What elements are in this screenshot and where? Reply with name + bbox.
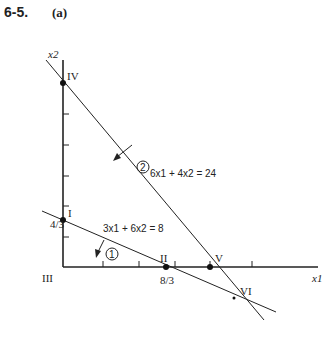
lp-graph: 1 2 3x1 + 6x2 = 8 6x1 + 4x2 = 24 IV I II… [0,0,333,338]
point-V [207,264,213,270]
constraint-2-line [46,60,264,320]
svg-text:x2: x2 [47,48,59,60]
svg-text:V: V [215,252,223,264]
svg-text:VI: VI [240,285,252,297]
svg-text:II: II [160,252,168,264]
point-II [163,264,169,270]
svg-text:I: I [68,207,72,219]
svg-text:2: 2 [140,162,146,173]
point-IV [60,80,66,86]
svg-text:IV: IV [67,70,79,82]
x1-frac-label: 8/3 [160,274,175,286]
point-VI [233,297,236,300]
svg-text:III: III [42,272,53,284]
x2-frac-label: 4/3 [50,218,65,230]
svg-text:1: 1 [109,249,115,260]
constraint-1-equation: 3x1 + 6x2 = 8 [103,223,164,234]
svg-text:x1: x1 [311,272,322,284]
constraint-2-equation: 6x1 + 4x2 = 24 [150,168,217,179]
